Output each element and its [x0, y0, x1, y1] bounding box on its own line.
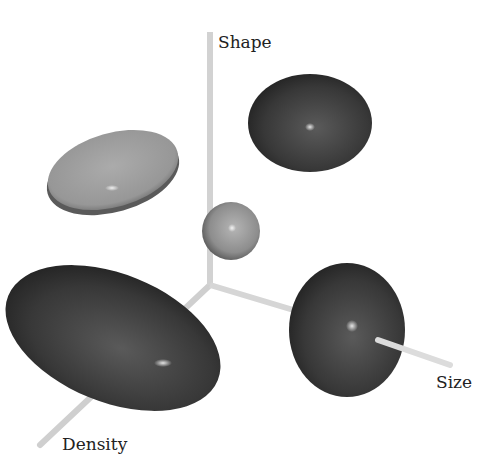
diagram-svg: [0, 0, 495, 476]
size-axis-label: Size: [436, 372, 472, 392]
size-axis-back: [210, 285, 300, 312]
center-sphere: [202, 202, 260, 260]
flat-disc-ellipsoid: [37, 116, 188, 229]
shape-ellipsoid: [248, 74, 372, 172]
shape-axis-label: Shape: [218, 32, 272, 52]
density-ellipsoid: [0, 236, 242, 439]
size-sphere: [289, 263, 405, 397]
diagram-canvas: Shape Size Density: [0, 0, 495, 476]
density-axis-label: Density: [62, 434, 127, 454]
